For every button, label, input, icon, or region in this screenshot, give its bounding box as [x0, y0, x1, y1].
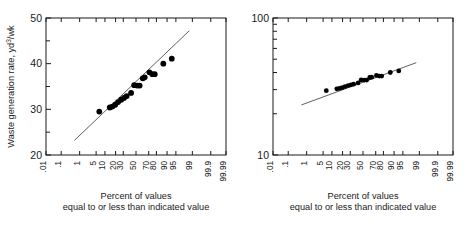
x-tick-label: 30	[343, 161, 352, 171]
x-tick-label: 99.9	[204, 161, 213, 177]
x-tick-label: 80	[149, 161, 158, 171]
plot-frame	[273, 18, 453, 155]
x-tick-label: .1	[54, 161, 63, 168]
y-axis-title: Waste generation rate, yd3/wk	[5, 25, 17, 148]
x-tick-label: 50	[129, 161, 138, 171]
data-point	[142, 74, 148, 80]
y-tick-label: 40	[30, 57, 42, 69]
x-tick-label: 1	[73, 161, 82, 166]
y-tick-label: 100	[251, 12, 269, 24]
y-tick-label: 30	[30, 103, 42, 115]
x-axis-title-line2: equal to or less than indicated value	[290, 202, 437, 212]
x-tick-label: 10	[98, 161, 107, 171]
x-tick-label: 99.99	[446, 161, 455, 182]
left-probability-plot: .01.11510203050708090959999.999.99203040…	[0, 0, 238, 228]
x-tick-label: 10	[325, 161, 334, 171]
x-tick-label: 99.9	[431, 161, 440, 177]
x-tick-label: 5	[316, 161, 325, 166]
x-tick-label: .1	[281, 161, 290, 168]
data-point	[160, 61, 166, 67]
x-tick-label: 99.99	[219, 161, 228, 182]
x-tick-label: 99	[185, 161, 194, 171]
figure-two-probability-plots: .01.11510203050708090959999.999.99203040…	[0, 0, 476, 228]
x-axis-title-line2: equal to or less than indicated value	[63, 202, 210, 212]
data-point	[137, 83, 143, 89]
x-tick-label: 95	[169, 161, 178, 171]
data-point	[96, 109, 102, 115]
right-probability-plot: .01.11510203050708090959999.999.9910100P…	[238, 0, 476, 228]
x-tick-label: 30	[116, 161, 125, 171]
x-tick-label: 95	[396, 161, 405, 171]
data-point	[379, 74, 384, 79]
y-tick-label: 10	[257, 149, 269, 161]
data-point	[369, 75, 374, 80]
data-point	[324, 88, 329, 93]
data-point	[396, 69, 401, 74]
data-point	[128, 90, 134, 96]
x-tick-label: .01	[266, 161, 275, 173]
x-tick-label: 5	[89, 161, 98, 166]
right-chart-panel: .01.11510203050708090959999.999.9910100P…	[238, 0, 476, 228]
x-tick-label: .01	[39, 161, 48, 173]
data-point	[388, 70, 393, 75]
x-tick-label: 90	[387, 161, 396, 171]
data-point	[351, 82, 356, 87]
data-point	[152, 71, 158, 77]
x-tick-label: 80	[376, 161, 385, 171]
x-tick-label: 99	[412, 161, 421, 171]
y-axis-title-tail: /wk	[6, 25, 16, 39]
data-point	[169, 56, 175, 62]
y-tick-label: 50	[30, 12, 42, 24]
x-tick-label: 1	[300, 161, 309, 166]
y-axis-title-main: Waste generation rate, yd	[6, 43, 16, 148]
x-tick-label: 50	[356, 161, 365, 171]
x-tick-label: 90	[160, 161, 169, 171]
left-chart-panel: .01.11510203050708090959999.999.99203040…	[0, 0, 238, 228]
y-tick-label: 20	[30, 149, 42, 161]
x-axis-title-line1: Percent of values	[101, 191, 172, 201]
y-axis-title-text: Waste generation rate, yd3/wk	[5, 25, 17, 148]
x-axis-title-line1: Percent of values	[328, 191, 399, 201]
